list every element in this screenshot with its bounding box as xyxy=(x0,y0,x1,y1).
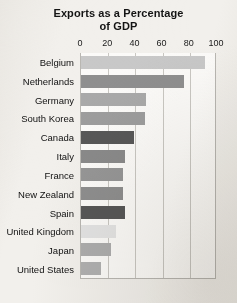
x-tick-label: 40 xyxy=(129,38,139,48)
bar xyxy=(81,93,146,106)
category-label: Canada xyxy=(0,131,77,144)
x-tick-label: 0 xyxy=(77,38,82,48)
category-label: Belgium xyxy=(0,56,77,69)
bar xyxy=(81,168,123,181)
chart-title-line-2: of GDP xyxy=(0,20,237,33)
category-label: Germany xyxy=(0,94,77,107)
bar-row xyxy=(81,150,215,163)
category-label: United States xyxy=(0,263,77,276)
x-tick-label: 100 xyxy=(208,38,223,48)
bar-row xyxy=(81,262,215,275)
bar-row xyxy=(81,243,215,256)
bar-row xyxy=(81,225,215,238)
bar xyxy=(81,225,116,238)
category-labels: BelgiumNetherlandsGermanySouth KoreaCana… xyxy=(0,53,77,279)
x-tick-label: 60 xyxy=(157,38,167,48)
chart-title: Exports as a Percentage of GDP xyxy=(0,7,237,33)
bar xyxy=(81,150,125,163)
bar-row xyxy=(81,206,215,219)
category-label: South Korea xyxy=(0,112,77,125)
bar xyxy=(81,187,123,200)
x-tick-label: 20 xyxy=(102,38,112,48)
category-label: United Kingdom xyxy=(0,225,77,238)
bar xyxy=(81,56,205,69)
bar-row xyxy=(81,56,215,69)
bar xyxy=(81,75,184,88)
category-label: Netherlands xyxy=(0,75,77,88)
x-tick-label: 80 xyxy=(184,38,194,48)
bar xyxy=(81,112,145,125)
bar-row xyxy=(81,187,215,200)
bar xyxy=(81,243,111,256)
bar-row xyxy=(81,168,215,181)
category-label: France xyxy=(0,169,77,182)
bars-container xyxy=(81,53,215,278)
category-label: New Zealand xyxy=(0,188,77,201)
category-label: Spain xyxy=(0,207,77,220)
category-label: Japan xyxy=(0,244,77,257)
x-axis-tick-labels: 020406080100 xyxy=(0,38,237,50)
category-label: Italy xyxy=(0,150,77,163)
chart-figure: Exports as a Percentage of GDP 020406080… xyxy=(0,0,237,303)
bar-row xyxy=(81,93,215,106)
bar xyxy=(81,206,125,219)
chart-title-line-1: Exports as a Percentage xyxy=(0,7,237,20)
bar-row xyxy=(81,112,215,125)
bar-row xyxy=(81,75,215,88)
plot-area xyxy=(80,53,216,279)
bar-row xyxy=(81,131,215,144)
bar xyxy=(81,262,101,275)
bar xyxy=(81,131,134,144)
